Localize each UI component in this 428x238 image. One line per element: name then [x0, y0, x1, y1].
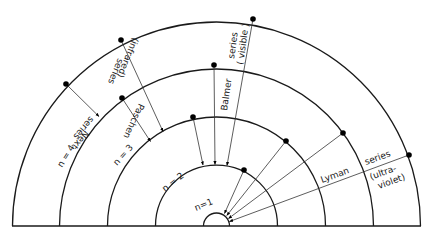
orbit-n1	[204, 213, 230, 226]
orbit-n5	[13, 22, 421, 226]
svg-text:series: series	[363, 148, 392, 167]
svg-text:Lyman: Lyman	[319, 165, 350, 184]
orbit-n4	[60, 69, 374, 226]
next-series-label: Next series	[70, 115, 96, 152]
label-n1: n=1	[193, 196, 214, 212]
balmer-label: Balmer series ( visible )	[219, 23, 251, 112]
hydrogen-spectral-series-diagram: n=1 n = 2 n = 3 n = 4 Lyman series (ultr…	[0, 0, 428, 238]
svg-text:Balmer: Balmer	[219, 78, 233, 112]
next-series-transitions	[66, 84, 99, 117]
label-n3: n = 3	[111, 142, 135, 167]
label-n2: n = 2	[160, 170, 186, 193]
svg-text:Paschen: Paschen	[121, 102, 146, 140]
orbit-n3	[108, 117, 326, 226]
